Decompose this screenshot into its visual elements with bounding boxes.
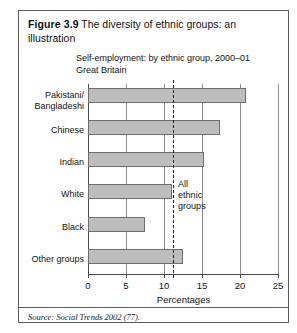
figure-source: Source: Social Trends 2002 (77). <box>28 312 140 322</box>
x-axis-line <box>88 274 279 275</box>
chart-region-line: Great Britain <box>76 65 286 77</box>
figure-container: Figure 3.9 The diversity of ethnic group… <box>18 10 289 323</box>
x-tick-label-25: 25 <box>273 280 284 291</box>
chart-subtitle: Self-employment: by ethnic group, 2000–0… <box>76 53 286 76</box>
category-label: Pakistani/ Bangladeshi <box>20 90 84 111</box>
category-label: Chinese <box>20 125 84 136</box>
x-tick-label-0: 0 <box>85 280 90 291</box>
bar-pakistani-bangladeshi <box>88 88 246 103</box>
category-label: Black <box>20 222 84 233</box>
x-tick-label-5: 5 <box>123 280 128 291</box>
x-axis-title: Percentages <box>88 294 279 305</box>
bar-chinese <box>88 120 220 135</box>
bar-white <box>88 184 172 199</box>
all-ethnic-groups-reference-line <box>173 80 174 278</box>
gridline-25 <box>278 84 279 274</box>
x-tick-label-15: 15 <box>197 280 208 291</box>
chart-title-line: Self-employment: by ethnic group, 2000–0… <box>76 53 286 65</box>
figure-caption: Figure 3.9 The diversity of ethnic group… <box>28 18 280 45</box>
figure-label: Figure 3.9 <box>28 18 79 30</box>
bar-indian <box>88 152 204 167</box>
x-tick-label-20: 20 <box>235 280 246 291</box>
bar-other-groups <box>88 249 183 264</box>
x-tick-5 <box>126 274 127 278</box>
source-reference: Social Trends 2002 (77). <box>56 312 140 322</box>
x-tick-15 <box>202 274 203 278</box>
category-label: Other groups <box>20 254 84 265</box>
bar-black <box>88 217 145 232</box>
x-tick-label-10: 10 <box>159 280 170 291</box>
category-label: Indian <box>20 157 84 168</box>
all-ethnic-groups-label: All ethnic groups <box>178 179 222 212</box>
source-divider <box>19 307 288 308</box>
x-tick-20 <box>240 274 241 278</box>
x-tick-0 <box>88 274 89 278</box>
gridline-10 <box>164 84 165 274</box>
chart: Self-employment: by ethnic group, 2000–0… <box>19 53 288 301</box>
gridline-5 <box>126 84 127 274</box>
x-tick-25 <box>278 274 279 278</box>
plot-area: All ethnic groups <box>88 84 278 274</box>
source-prefix: Source: <box>28 312 54 322</box>
y-axis-labels: Pakistani/ Bangladeshi Chinese Indian Wh… <box>19 84 84 274</box>
category-label: White <box>20 189 84 200</box>
x-tick-10 <box>164 274 165 278</box>
gridline-20 <box>240 84 241 274</box>
